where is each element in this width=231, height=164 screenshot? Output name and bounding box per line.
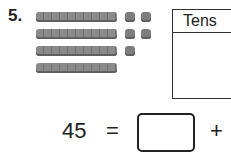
tens-header: Tens [173, 10, 231, 33]
ones-cube [125, 46, 135, 56]
tens-rod [36, 63, 117, 73]
tens-rod [36, 12, 117, 22]
ones-cube [141, 12, 151, 22]
tens-rod [36, 46, 117, 56]
tens-rod [36, 29, 117, 39]
equation-number: 45 [62, 118, 86, 144]
ones-cube [141, 29, 151, 39]
plus-sign: + [210, 118, 223, 144]
answer-box[interactable] [137, 113, 195, 152]
place-value-table: Tens [172, 9, 231, 99]
equals-sign: = [106, 118, 119, 144]
ones-cube [125, 12, 135, 22]
ones-cube [125, 29, 135, 39]
problem-number: 5. [8, 6, 22, 26]
